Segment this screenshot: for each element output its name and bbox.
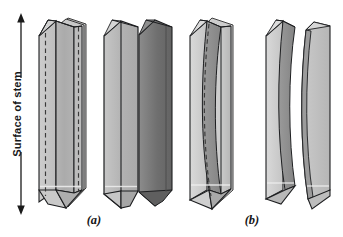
figure-container: Surface of stem xyxy=(0,0,343,237)
prism1-left-face xyxy=(39,21,56,202)
panel-caption-a: (a) xyxy=(87,213,102,227)
prism3-right-face xyxy=(221,26,231,194)
prism1-front-face xyxy=(56,21,74,193)
axis-label: Surface of stem xyxy=(11,71,23,156)
crystal-pair-overlapping-prisms xyxy=(104,20,172,208)
panel-caption-b: (b) xyxy=(245,213,260,227)
crystal-single-hexagonal-prism xyxy=(39,18,86,208)
crystal-curved-single-prism xyxy=(190,18,233,209)
prism2-rear-body xyxy=(139,20,172,206)
crystal-orientation-diagram: Surface of stem xyxy=(0,0,343,237)
